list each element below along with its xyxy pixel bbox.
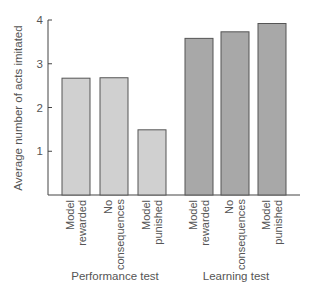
category-label-line: Model [140,200,152,270]
category-label-line: punished [272,200,284,270]
category-label-line: consequences [114,200,126,270]
category-label-line: Model [187,200,199,270]
y-axis-label-text: Average number of acts imitated [12,25,24,190]
y-tick-label: 4 [37,14,44,26]
y-tick-label: 1 [37,145,43,157]
category-label: Modelrewarded [187,200,211,270]
y-tick-label: 3 [37,58,43,70]
category-label: Noconsequences [102,200,126,270]
category-label: Modelpunished [260,200,284,270]
group-label-performance-test: Performance test [71,270,159,282]
category-label: Noconsequences [223,200,247,270]
bar [221,32,249,195]
bar [100,78,128,195]
category-label-line: rewarded [76,200,88,270]
category-label-line: Model [260,200,272,270]
y-tick-label: 2 [37,102,43,114]
bar [62,78,90,195]
category-label: Modelpunished [140,200,164,270]
group-label-learning-test: Learning test [203,270,270,282]
category-label-line: punished [152,200,164,270]
bar [185,38,213,195]
category-label-line: No [223,200,235,270]
category-label-line: rewarded [199,200,211,270]
category-label-line: consequences [235,200,247,270]
bar [138,130,166,195]
category-label-line: Model [64,200,76,270]
bar [258,24,286,196]
bar-chart: 1234 Average number of acts imitated Per… [0,0,309,294]
category-label: Modelrewarded [64,200,88,270]
category-label-line: No [102,200,114,270]
